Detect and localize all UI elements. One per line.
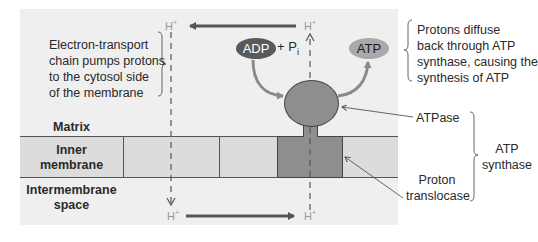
intermembrane-space-label: Intermembrane space: [20, 183, 123, 213]
proton-top-left: H+: [165, 19, 177, 32]
translocase-label: Proton translocase: [406, 172, 468, 204]
synthase-brace: [470, 112, 478, 201]
synthase-label: ATP synthase: [479, 141, 535, 173]
proton-top-right: H+: [304, 19, 316, 32]
proton-bottom-left: H+: [167, 209, 179, 222]
atp-molecule: ATP: [349, 38, 389, 59]
inner-membrane-label: Inner membrane: [20, 143, 123, 173]
translocase-leader: [345, 157, 403, 198]
proton-bottom-right: H+: [304, 209, 316, 222]
diffuse-annotation: Protons diffuse back through ATP synthas…: [417, 22, 538, 86]
matrix-label: Matrix: [20, 120, 123, 135]
atpase-to-atp-arrow: [338, 62, 368, 96]
atpase-head: [284, 80, 339, 127]
etc-annotation: Electron-transport chain pumps protons t…: [49, 37, 165, 101]
atpase-leader: [342, 107, 413, 117]
adp-to-atpase-arrow: [253, 60, 283, 96]
adp-molecule: ADP: [236, 38, 276, 59]
phosphate-label: + Pi: [277, 39, 299, 57]
atpase-label: ATPase: [416, 110, 460, 126]
